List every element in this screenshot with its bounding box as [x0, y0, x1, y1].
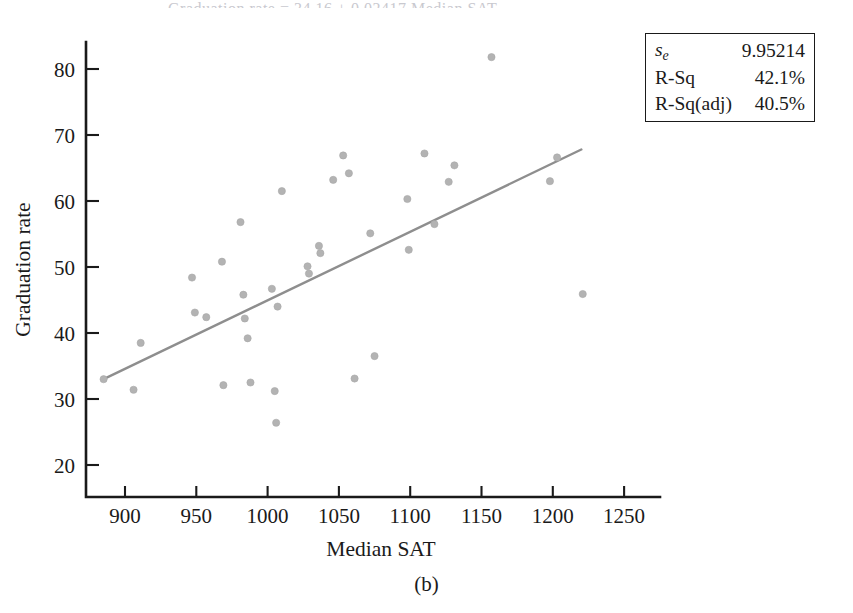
x-tick-label: 950 [181, 504, 213, 528]
data-point [137, 339, 144, 346]
x-tick-label: 1150 [461, 504, 502, 528]
data-point [241, 315, 248, 322]
data-point [431, 221, 438, 228]
regression-fit-line [104, 150, 582, 380]
data-point [367, 230, 374, 237]
y-tick-label: 70 [54, 124, 75, 148]
data-point [203, 314, 210, 321]
x-tick-label: 1250 [603, 504, 645, 528]
statistics-row: R-Sq(adj)40.5% [655, 91, 805, 117]
axes-group [86, 42, 660, 497]
data-point [330, 176, 337, 183]
data-point [579, 290, 586, 297]
data-points-group [100, 54, 586, 427]
data-point [220, 382, 227, 389]
x-tick-label: 900 [109, 504, 141, 528]
x-tick-label: 1000 [247, 504, 289, 528]
statistics-box: se9.95214R-Sq42.1%R-Sq(adj)40.5% [645, 33, 815, 122]
data-point [273, 419, 280, 426]
statistics-row: R-Sq42.1% [655, 65, 805, 91]
data-point [445, 178, 452, 185]
data-point [130, 386, 137, 393]
tick-labels-group: 9009501000105011001150120012502030405060… [54, 58, 645, 529]
data-point [405, 246, 412, 253]
data-point [421, 150, 428, 157]
y-tick-label: 20 [54, 454, 75, 478]
data-point [278, 188, 285, 195]
y-tick-label: 30 [54, 388, 75, 412]
data-point [268, 285, 275, 292]
data-point [546, 178, 553, 185]
data-point [240, 291, 247, 298]
data-point [305, 270, 312, 277]
data-point [451, 162, 458, 169]
data-point [244, 335, 251, 342]
y-tick-label: 50 [54, 256, 75, 280]
statistics-value: 40.5% [741, 91, 805, 117]
x-axis-title: Median SAT [326, 537, 435, 561]
data-point [317, 250, 324, 257]
data-point [100, 376, 107, 383]
ticks-group [86, 69, 624, 497]
statistics-value: 42.1% [741, 65, 805, 91]
y-tick-label: 60 [54, 190, 75, 214]
data-point [188, 274, 195, 281]
data-point [488, 54, 495, 61]
data-point [340, 152, 347, 159]
plot-axes [86, 42, 660, 497]
x-tick-label: 1100 [390, 504, 431, 528]
x-tick-label: 1050 [318, 504, 360, 528]
data-point [315, 242, 322, 249]
statistics-table: se9.95214R-Sq42.1%R-Sq(adj)40.5% [655, 37, 805, 116]
data-point [404, 195, 411, 202]
statistics-key: R-Sq(adj) [655, 91, 741, 117]
data-point [345, 170, 352, 177]
regression-line [104, 150, 582, 380]
statistics-value: 9.95214 [741, 37, 805, 65]
data-point [274, 303, 281, 310]
statistics-key: R-Sq [655, 65, 741, 91]
data-point [271, 387, 278, 394]
figure-caption: (b) [0, 572, 853, 597]
y-tick-label: 40 [54, 322, 75, 346]
statistics-key: se [655, 37, 741, 65]
statistics-row: se9.95214 [655, 37, 805, 65]
data-point [191, 309, 198, 316]
y-axis-title: Graduation rate [11, 202, 35, 336]
data-point [218, 258, 225, 265]
y-tick-label: 80 [54, 58, 75, 82]
data-point [237, 219, 244, 226]
data-point [553, 154, 560, 161]
data-point [247, 379, 254, 386]
figure-panel: Graduation rate = 34.16 + 0.02417 Median… [0, 0, 853, 613]
data-point [304, 263, 311, 270]
data-point [371, 353, 378, 360]
x-tick-label: 1200 [532, 504, 574, 528]
data-point [351, 375, 358, 382]
